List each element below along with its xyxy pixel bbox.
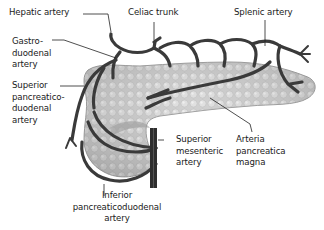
label-superior-pancreaticoduodenal-artery: Superior pancreatico- duodenal artery xyxy=(12,80,65,126)
label-inferior-pancreaticoduodenal-artery: Inferior pancreaticoduodenal artery xyxy=(60,190,174,225)
label-splenic-artery: Splenic artery xyxy=(234,7,293,19)
label-arteria-pancreatica-magna: Arteria pancreatica magna xyxy=(236,134,285,169)
leader-gastroduodenal xyxy=(52,40,116,58)
hepatic-artery-vessel xyxy=(111,34,154,53)
pancreas-artery-diagram: Hepatic artery Celiac trunk Splenic arte… xyxy=(0,0,324,230)
label-hepatic-artery: Hepatic artery xyxy=(9,7,69,19)
label-celiac-trunk: Celiac trunk xyxy=(128,7,178,19)
leader-hepatic xyxy=(83,14,111,32)
superior-mesenteric-artery-vessel xyxy=(150,128,157,188)
label-gastroduodenal-artery: Gastro- duodenal artery xyxy=(12,36,51,71)
label-superior-mesenteric-artery: Superior mesenteric artery xyxy=(176,134,223,169)
